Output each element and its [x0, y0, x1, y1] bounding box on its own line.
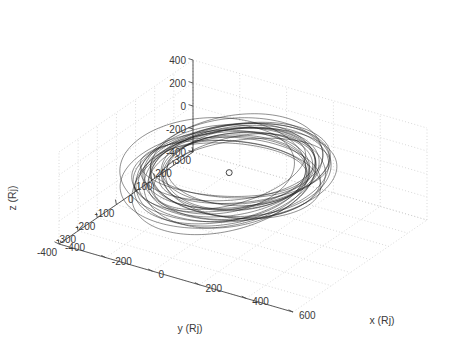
tick-label: 200: [169, 78, 186, 89]
tick-label: 0: [159, 269, 165, 280]
orbit-plot-3d: -400-20002004003002001000-100-200-300-40…: [0, 0, 471, 358]
x-axis-title: x (Rj): [369, 314, 394, 326]
tick-label: 200: [205, 283, 222, 294]
tick-label: 300: [174, 155, 191, 166]
tick-label: -400: [65, 242, 85, 253]
tick-label: 0: [128, 194, 134, 205]
tick-label: 200: [155, 168, 172, 179]
tick-label: 400: [169, 55, 186, 66]
y-axis-title: y (Rj): [177, 322, 202, 334]
tick-label: -100: [94, 208, 114, 219]
tick-label: -400: [37, 247, 57, 258]
tick-label: 600: [299, 310, 316, 321]
tick-label: -200: [112, 256, 132, 267]
tick-label: 0: [180, 101, 186, 112]
tick-label: 400: [252, 296, 269, 307]
z-axis-title: z (Rj): [6, 185, 18, 210]
plot-background: [0, 0, 471, 358]
tick-label: -200: [166, 124, 186, 135]
tick-label: -200: [75, 221, 95, 232]
tick-label: 100: [136, 181, 153, 192]
figure-canvas: -400-20002004003002001000-100-200-300-40…: [0, 0, 471, 358]
